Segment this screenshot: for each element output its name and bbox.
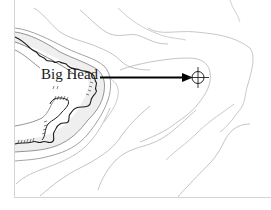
contour-line bbox=[15, 50, 40, 68]
contour-line bbox=[80, 10, 168, 44]
contour-line bbox=[178, 124, 250, 197]
place-label-big-head: Big Head bbox=[41, 67, 98, 82]
contour-line bbox=[40, 106, 150, 196]
contour-line bbox=[166, 104, 234, 160]
topographic-map: Big Head bbox=[0, 0, 271, 210]
shallow-water-band bbox=[15, 32, 105, 152]
contour-line bbox=[120, 58, 210, 142]
pointer-arrow bbox=[100, 73, 193, 82]
map-canvas bbox=[0, 0, 271, 210]
crosshair-target-icon bbox=[188, 67, 209, 88]
contour-line bbox=[98, 110, 196, 190]
contour-line bbox=[104, 76, 118, 122]
contour-line bbox=[230, 0, 240, 22]
